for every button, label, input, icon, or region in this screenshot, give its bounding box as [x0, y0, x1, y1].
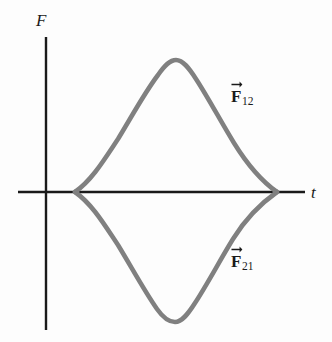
- force-time-figure: F t F 12 F 21: [0, 0, 332, 342]
- vector-symbol-f21: F: [231, 253, 241, 270]
- y-axis-label: F: [36, 12, 46, 29]
- plot-canvas: [0, 0, 332, 342]
- vector-symbol-f12: F: [231, 88, 241, 105]
- vector-base-f21: F: [231, 252, 241, 271]
- curve-label-f21: F 21: [231, 253, 253, 273]
- vector-subscript-f12: 12: [242, 95, 254, 107]
- vector-base-f12: F: [231, 87, 241, 106]
- curve-f12: [75, 60, 277, 192]
- axes-group: [18, 37, 305, 330]
- x-axis-label: t: [311, 184, 316, 201]
- vector-subscript-f21: 21: [242, 260, 254, 272]
- curve-label-f12: F 12: [231, 88, 253, 108]
